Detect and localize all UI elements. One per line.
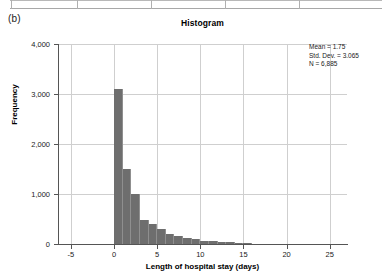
table-divider [299, 0, 300, 9]
gridline-vertical [330, 44, 331, 244]
y-axis-tick [54, 194, 59, 195]
histogram-bar [140, 220, 149, 244]
x-axis-tick-label: 5 [142, 250, 172, 259]
x-axis-tick-label: 0 [99, 250, 129, 259]
x-axis-tick [200, 245, 201, 249]
table-divider [225, 0, 226, 9]
gridline-horizontal [58, 144, 347, 145]
x-axis-tick [157, 245, 158, 249]
x-axis-tick [330, 245, 331, 249]
x-axis-title: Length of hospital stay (days) [58, 262, 347, 271]
x-axis-line [58, 244, 348, 245]
x-axis-tick [287, 245, 288, 249]
histogram-bar [174, 236, 183, 244]
plot-area [58, 44, 347, 244]
table-line-bottom [10, 8, 382, 9]
histogram-bar [114, 89, 123, 244]
x-axis-tick-label: 20 [272, 250, 302, 259]
y-axis-title: Frequency [10, 45, 19, 165]
sample-size-value: N = 6,885 [309, 60, 359, 69]
y-axis-tick-label: 0 [6, 240, 50, 249]
x-axis-tick-label: 10 [185, 250, 215, 259]
table-line-top [10, 0, 382, 1]
histogram-bar [149, 224, 158, 244]
x-axis-tick [71, 245, 72, 249]
histogram-bar [166, 234, 175, 244]
y-axis-tick [54, 244, 59, 245]
gridline-vertical [71, 44, 72, 244]
y-axis-tick [54, 44, 59, 45]
x-axis-tick-label: -5 [56, 250, 86, 259]
table-divider [77, 0, 78, 9]
x-axis-tick-label: 25 [315, 250, 345, 259]
y-axis-tick [54, 144, 59, 145]
histogram-figure: (b) Histogram 01,0002,0003,0004,000 -505… [0, 0, 382, 280]
x-axis-tick [243, 245, 244, 249]
y-axis-tick [54, 94, 59, 95]
statistics-annotation: Mean = 1.75 Std. Dev. = 3.065 N = 6,885 [309, 43, 359, 69]
y-axis-tick-label: 1,000 [6, 190, 50, 199]
stddev-value: Std. Dev. = 3.065 [309, 52, 359, 61]
gridline-vertical [287, 44, 288, 244]
gridline-horizontal [58, 94, 347, 95]
mean-value: Mean = 1.75 [309, 43, 359, 52]
histogram-bar [131, 194, 140, 244]
gridline-vertical [200, 44, 201, 244]
table-divider [11, 0, 12, 9]
table-divider [151, 0, 152, 9]
x-axis-tick-label: 15 [228, 250, 258, 259]
gridline-vertical [243, 44, 244, 244]
gridline-vertical [157, 44, 158, 244]
histogram-bar [157, 229, 166, 244]
gridline-horizontal [58, 44, 347, 45]
histogram-bar [123, 169, 132, 244]
table-border-remnant [0, 0, 382, 9]
x-axis-tick [114, 245, 115, 249]
panel-label: (b) [8, 13, 21, 24]
gridline-horizontal [58, 194, 347, 195]
chart-title: Histogram [58, 18, 347, 28]
